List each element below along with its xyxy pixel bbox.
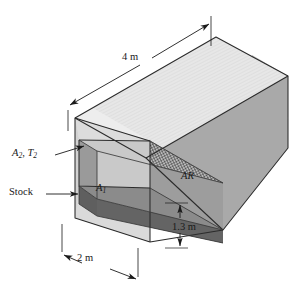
stock-label: Stock bbox=[9, 187, 33, 198]
heater-label: A2, T2 bbox=[12, 148, 37, 159]
furnace-cavity-diagram: 4 m 2 m 1.3 m A2, T2 Stock A1 AR bbox=[0, 0, 303, 296]
stock-area-label: A1 bbox=[96, 183, 106, 194]
dimension-label-width: 2 m bbox=[77, 253, 93, 264]
diagram-canvas bbox=[0, 0, 303, 296]
dimension-label-height: 1.3 m bbox=[172, 222, 196, 233]
dimension-label-length: 4 m bbox=[122, 52, 138, 63]
refractory-label: AR bbox=[181, 171, 194, 182]
heater-temp-subscript: 2 bbox=[33, 151, 37, 160]
stock-area-subscript: 1 bbox=[102, 186, 106, 195]
